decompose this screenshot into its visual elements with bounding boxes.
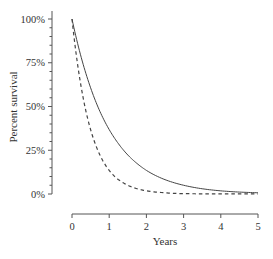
x-tick-label: 3 (181, 221, 186, 232)
x-tick-label: 1 (107, 221, 112, 232)
y-tick-label: 25% (26, 145, 46, 156)
y-tick-label: 50% (26, 101, 46, 112)
x-tick-label: 2 (144, 221, 149, 232)
plot-lines (72, 19, 258, 194)
y-tick-label: 75% (26, 57, 46, 68)
series-line-dashed (72, 19, 258, 194)
x-axis: 012345 (69, 214, 260, 232)
x-tick-label: 4 (218, 221, 224, 232)
x-tick-label: 0 (69, 221, 74, 232)
y-axis-title: Percent survival (7, 71, 19, 142)
series-line-solid (72, 19, 258, 193)
y-axis: 0%25%50%75%100% (21, 11, 53, 200)
survival-chart: 0%25%50%75%100% 012345 Percent survival … (0, 0, 273, 259)
y-tick-label: 0% (31, 189, 45, 200)
x-tick-label: 5 (255, 221, 260, 232)
y-tick-label: 100% (21, 14, 46, 25)
x-axis-title: Years (153, 235, 178, 247)
